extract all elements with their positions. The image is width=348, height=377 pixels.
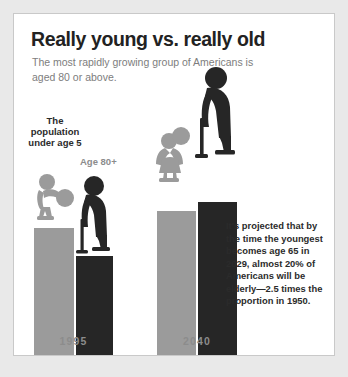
projection-annotation: It's projected that by the time the youn… xyxy=(226,220,323,308)
elderly-figure-1995-icon xyxy=(72,175,118,257)
infographic-root: Really young vs. really old The most rap… xyxy=(0,0,348,377)
elderly-figure-2040-icon xyxy=(192,66,244,161)
label-under-age-5: The population under age 5 xyxy=(22,115,88,149)
chart-plot-area: The population under age 5 Age 80+ It's … xyxy=(14,14,335,356)
label-age-80-plus: Age 80+ xyxy=(80,156,122,167)
axis-label-1995: 1995 xyxy=(34,335,113,347)
child-figure-1995-icon xyxy=(30,171,78,229)
infographic-card: Really young vs. really old The most rap… xyxy=(13,13,335,356)
axis-label-2040: 2040 xyxy=(157,335,237,347)
